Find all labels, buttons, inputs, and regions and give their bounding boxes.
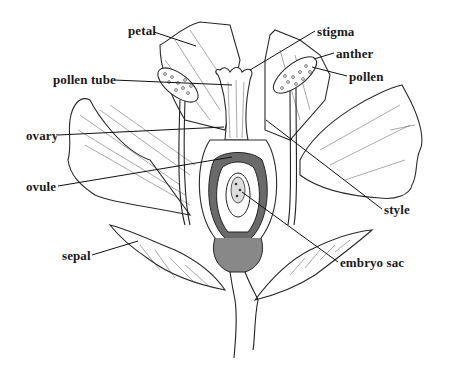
label-stigma: stigma — [317, 25, 354, 38]
ovary — [199, 140, 276, 252]
embryo-sac-shape — [231, 177, 245, 203]
flower-diagram — [0, 0, 456, 368]
stem — [234, 300, 258, 358]
label-style: style — [384, 203, 410, 216]
label-pollen: pollen — [349, 70, 384, 83]
receptacle — [213, 238, 262, 272]
petal-left — [68, 99, 195, 215]
label-ovule: ovule — [26, 180, 56, 193]
label-embryo-sac: embryo sac — [340, 256, 404, 269]
label-anther: anther — [336, 47, 373, 60]
sepal-left — [110, 225, 225, 290]
label-ovary: ovary — [26, 129, 58, 142]
pedicel — [230, 272, 258, 300]
label-petal: petal — [128, 24, 156, 37]
label-pollen-tube: pollen tube — [53, 73, 116, 86]
label-sepal: sepal — [62, 249, 91, 262]
